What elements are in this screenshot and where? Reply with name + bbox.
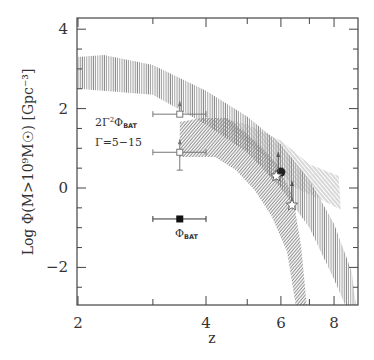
y-tick-label: 2	[58, 100, 68, 118]
y-tick-label: 4	[58, 20, 68, 38]
model-bands	[78, 55, 356, 305]
y-tick-label: −2	[46, 258, 68, 276]
x-tick-label: 8	[329, 314, 339, 332]
y-axis-title: Log Φ(M>10⁹M☉) [Gpc⁻³]	[20, 69, 36, 256]
chart: 2468−2024 z Log Φ(M>10⁹M☉) [Gpc⁻³] 2Γ2ΦB…	[0, 0, 374, 360]
annotation-gamma-range: Γ=5−15	[95, 136, 142, 149]
open-square-marker	[177, 149, 183, 155]
x-axis-title: z	[208, 330, 215, 346]
filled-square-marker	[176, 215, 183, 222]
open-square-marker	[177, 111, 183, 117]
y-tick-label: 0	[58, 179, 68, 197]
x-tick-label: 6	[276, 314, 286, 332]
x-tick-label: 2	[73, 314, 83, 332]
annotation-2gamma2-phi-bat: 2Γ2ΦBAT	[95, 116, 138, 130]
annotation-phi-bat: ΦBAT	[175, 227, 199, 241]
